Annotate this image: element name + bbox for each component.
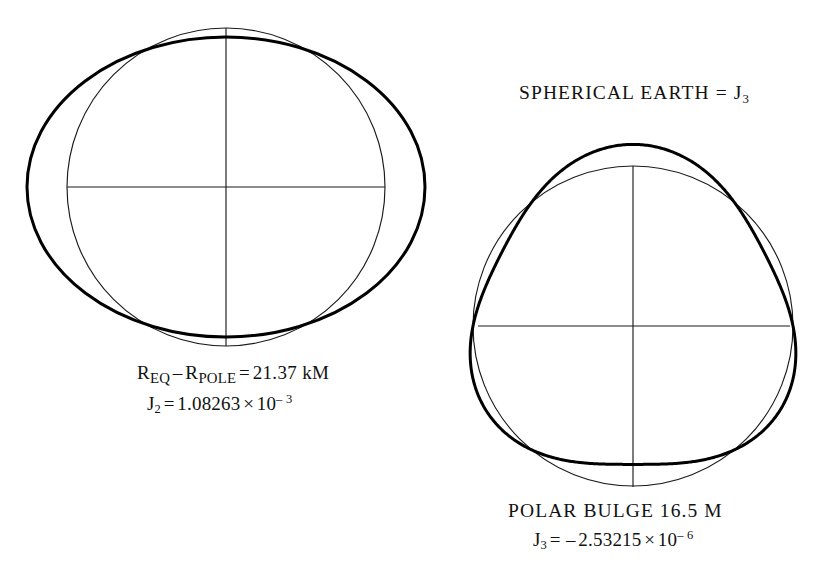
right-diagram-group: [470, 144, 796, 487]
equals-operator: =: [236, 362, 252, 383]
r-pole-subscript: POLE: [198, 370, 236, 386]
j2-times-operator: ×: [240, 393, 256, 414]
j2-mantissa: 1.08263: [177, 393, 240, 414]
left-caption-radius-difference: REQ–RPOLE=21.37 kM: [137, 362, 329, 387]
r-eq-subscript: EQ: [150, 370, 170, 386]
j2-equals: =: [161, 393, 177, 414]
r-pole-symbol: R: [185, 362, 198, 383]
j3-base: 10: [658, 529, 677, 550]
spherical-earth-title-subscript: 3: [742, 92, 749, 106]
j3-times-operator: ×: [641, 529, 657, 550]
radius-difference-value: 21.37 kM: [253, 362, 330, 383]
figure-root: SPHERICAL EARTH = J3 REQ–RPOLE=21.37 kM …: [0, 0, 814, 567]
j2-base: 10: [257, 393, 276, 414]
j3-sign: –: [563, 529, 578, 550]
spherical-earth-title-text: SPHERICAL EARTH = J: [519, 82, 742, 103]
r-eq-symbol: R: [137, 362, 150, 383]
j2-symbol: J: [147, 393, 155, 414]
spherical-earth-title: SPHERICAL EARTH = J3: [519, 82, 749, 106]
j3-symbol: J: [533, 529, 541, 550]
j2-exponent: – 3: [276, 392, 292, 406]
polar-bulge-text: POLAR BULGE 16.5 M: [508, 500, 723, 521]
right-caption-polar-bulge: POLAR BULGE 16.5 M: [508, 500, 723, 522]
left-diagram-group: [27, 28, 425, 346]
right-caption-j3-formula: J3=–2.53215×10– 6: [533, 528, 693, 552]
j3-exponent: – 6: [677, 528, 693, 542]
minus-operator: –: [170, 362, 185, 383]
j3-mantissa: 2.53215: [578, 529, 641, 550]
left-caption-j2-formula: J2=1.08263×10– 3: [147, 392, 292, 416]
j3-equals: =: [547, 529, 563, 550]
